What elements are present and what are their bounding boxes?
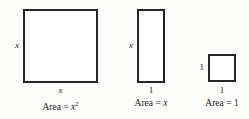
tile-rectangle-x-width-label: 1: [137, 85, 165, 95]
tile-rectangle-x: [137, 9, 165, 83]
tile-square-unit: [208, 54, 236, 82]
tile-square-unit-width-label: 1: [208, 85, 236, 95]
area-value-2: x: [163, 98, 167, 108]
area-word-1: Area =: [42, 102, 68, 112]
area-value-3: 1: [234, 98, 239, 108]
algebra-tiles-diagram: x x Area = x2 x 1 Area = x 1 1 Area = 1: [0, 0, 249, 119]
tile-square-x-squared-height-label: x: [0, 40, 19, 50]
area-exponent-1: 2: [75, 100, 78, 107]
tile-square-x-squared-width-label: x: [23, 85, 98, 95]
tile-square-unit-area-caption: Area = 1: [188, 98, 249, 109]
tile-rectangle-x-height-label: x: [114, 40, 133, 50]
area-word-3: Area =: [205, 98, 231, 108]
area-word-2: Area =: [135, 98, 161, 108]
tile-square-x-squared: [23, 9, 98, 83]
tile-square-x-squared-area-caption: Area = x2: [11, 98, 110, 113]
tile-square-unit-height-label: 1: [185, 62, 204, 72]
tile-rectangle-x-area-caption: Area = x: [116, 98, 186, 109]
